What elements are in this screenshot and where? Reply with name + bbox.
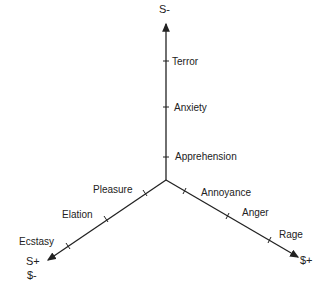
label-anger: Anger [242,207,269,218]
label-annoyance: Annoyance [201,187,251,198]
label-elation: Elation [62,209,93,220]
lower-left-end-label-dollar-minus: $- [27,270,37,281]
lower-left-end-label-s-plus: S+ [26,256,40,267]
label-terror: Terror [172,56,198,67]
label-anxiety: Anxiety [174,102,207,113]
label-ecstasy: Ecstasy [19,236,54,247]
label-rage: Rage [279,229,303,240]
lower-right-end-label: $+ [300,255,313,266]
label-pleasure: Pleasure [93,184,132,195]
axes-diagram [0,0,326,291]
vertical-axis-end-label: S- [159,4,170,15]
label-apprehension: Apprehension [175,151,237,162]
